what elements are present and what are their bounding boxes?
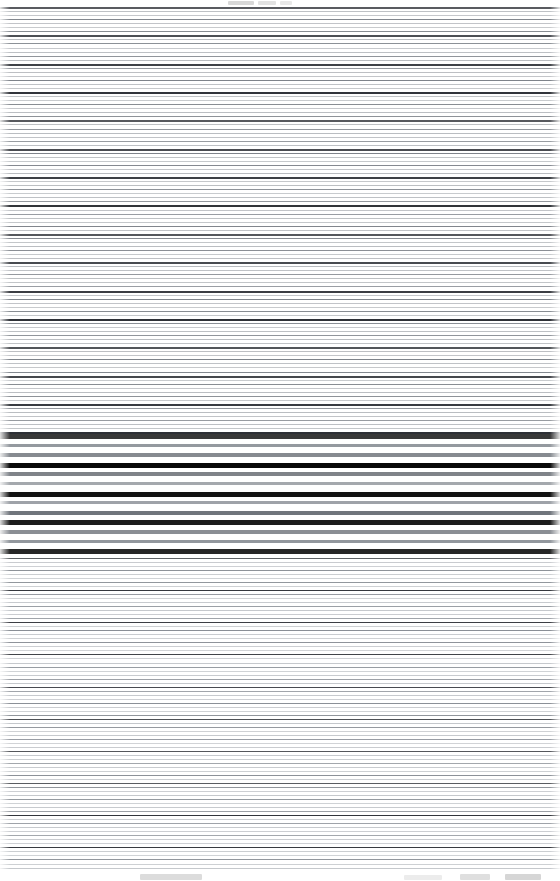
scanline bbox=[0, 210, 560, 211]
scanline bbox=[0, 755, 560, 756]
scanline bbox=[0, 266, 560, 267]
scanline bbox=[0, 715, 560, 716]
scanline bbox=[0, 735, 560, 736]
scanline bbox=[0, 747, 560, 748]
header-smudge bbox=[280, 1, 292, 5]
scanline bbox=[0, 347, 560, 349]
scanline bbox=[0, 695, 560, 696]
scanline bbox=[0, 201, 560, 202]
scanline bbox=[0, 775, 560, 776]
scanline bbox=[0, 133, 560, 134]
scanline bbox=[0, 851, 560, 852]
scanline bbox=[0, 646, 560, 647]
scanline bbox=[0, 173, 560, 174]
scanline bbox=[0, 783, 560, 784]
scanline bbox=[0, 582, 560, 583]
scanline bbox=[0, 331, 560, 332]
scanline bbox=[0, 562, 560, 563]
scanline bbox=[0, 759, 560, 760]
scanline bbox=[0, 218, 560, 219]
scanline bbox=[0, 859, 560, 860]
scanline bbox=[0, 185, 560, 186]
scanline bbox=[0, 396, 560, 397]
scanline bbox=[0, 807, 560, 808]
scanline bbox=[0, 408, 560, 409]
scanline bbox=[0, 388, 560, 389]
scanline bbox=[0, 234, 560, 236]
scanline bbox=[0, 323, 560, 324]
scanline bbox=[0, 763, 560, 764]
scanline bbox=[0, 80, 560, 81]
scanline bbox=[0, 226, 560, 227]
scanline bbox=[0, 416, 560, 417]
scanline bbox=[0, 76, 560, 77]
footer-smudge bbox=[505, 874, 541, 880]
scanline bbox=[0, 355, 560, 356]
scanline bbox=[0, 64, 560, 66]
scanline bbox=[0, 558, 560, 559]
scanline bbox=[0, 420, 560, 421]
scanline bbox=[0, 727, 560, 728]
scanline bbox=[0, 463, 560, 468]
scanline bbox=[0, 434, 560, 439]
scanline bbox=[0, 307, 560, 308]
scanline bbox=[0, 707, 560, 708]
footer-smudge bbox=[404, 875, 442, 880]
scanline bbox=[0, 819, 560, 820]
scanline bbox=[0, 339, 560, 340]
scanline bbox=[0, 618, 560, 619]
scanline bbox=[0, 189, 560, 190]
scanline bbox=[0, 831, 560, 832]
scanline bbox=[0, 311, 560, 312]
scanline bbox=[0, 501, 560, 504]
scanline bbox=[0, 149, 560, 151]
scanline bbox=[0, 835, 560, 836]
scanline bbox=[0, 472, 560, 476]
scanline bbox=[0, 319, 560, 321]
scanline bbox=[0, 530, 560, 534]
scanline bbox=[0, 60, 560, 61]
scanline bbox=[0, 400, 560, 401]
scanline bbox=[0, 35, 560, 37]
scanline bbox=[0, 566, 560, 567]
footer-status-band bbox=[0, 871, 560, 881]
scanline bbox=[0, 739, 560, 740]
content-zone-lower bbox=[0, 558, 560, 871]
scanline bbox=[0, 299, 560, 300]
scanline bbox=[0, 380, 560, 381]
scanline bbox=[0, 270, 560, 271]
scanline bbox=[0, 7, 560, 9]
scanline bbox=[0, 137, 560, 138]
scanline bbox=[0, 100, 560, 101]
scanline bbox=[0, 827, 560, 828]
scanline bbox=[0, 363, 560, 364]
scanline bbox=[0, 751, 560, 752]
scanline bbox=[0, 112, 560, 113]
scanline bbox=[0, 254, 560, 255]
scanline bbox=[0, 630, 560, 631]
scanline bbox=[0, 691, 560, 692]
scanline bbox=[0, 570, 560, 571]
scanline bbox=[0, 278, 560, 279]
scanline bbox=[0, 315, 560, 316]
scanline bbox=[0, 815, 560, 816]
scanline bbox=[0, 614, 560, 615]
scanline bbox=[0, 286, 560, 287]
scanline bbox=[0, 855, 560, 856]
scanline bbox=[0, 743, 560, 744]
scanline bbox=[0, 392, 560, 393]
scanline bbox=[0, 703, 560, 704]
scanline bbox=[0, 96, 560, 97]
scanline bbox=[0, 88, 560, 89]
scanline bbox=[0, 650, 560, 651]
scanline bbox=[0, 19, 560, 20]
header-smudge bbox=[228, 1, 254, 5]
scanline bbox=[0, 367, 560, 368]
scanline bbox=[0, 120, 560, 122]
scanline bbox=[0, 654, 560, 655]
scanline bbox=[0, 84, 560, 85]
scanline bbox=[0, 428, 560, 429]
scanline bbox=[0, 719, 560, 720]
scanline bbox=[0, 108, 560, 109]
footer-smudge bbox=[140, 874, 202, 880]
